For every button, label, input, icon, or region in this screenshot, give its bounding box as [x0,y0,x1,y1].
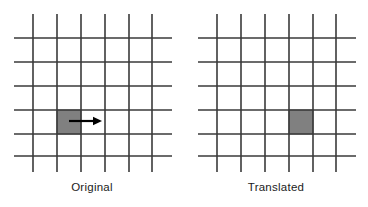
highlighted-cell-translated [289,110,313,134]
grid-horizontal-lines-original [14,38,172,156]
caption-original: Original [0,180,184,195]
panel-original: Original [0,0,184,207]
grid-horizontal-lines-translated [198,38,356,156]
grid-translated [184,0,368,180]
arrow-head-icon [93,117,102,125]
translation-diagram: Original [0,0,368,207]
caption-translated: Translated [184,180,368,195]
panel-translated: Translated [184,0,368,207]
grid-original [0,0,184,180]
